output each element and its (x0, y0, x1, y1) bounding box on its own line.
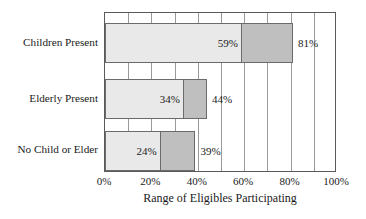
x-axis-title: Range of Eligibles Participating (104, 192, 336, 205)
x-tick-label-40: 40% (187, 176, 207, 187)
x-tick-label-100: 100% (323, 176, 349, 187)
x-tick-label-20: 20% (140, 176, 160, 187)
bar-segment-high (161, 131, 196, 171)
bar-segment-high (184, 79, 207, 119)
bar-value-label-high: 81% (293, 38, 318, 49)
category-label-elderly-present: Elderly Present (0, 92, 98, 104)
bar-row: 24%39% (105, 131, 337, 171)
bar-value-label-low: 34% (160, 94, 184, 105)
bar-row: 59%81% (105, 23, 337, 63)
plot-area: 59%81%34%44%24%39% (104, 12, 336, 172)
category-label-no-child-or-elder: No Child or Elder (0, 143, 98, 155)
bar-value-label-high: 44% (207, 94, 232, 105)
bar-row: 34%44% (105, 79, 337, 119)
bar-segment-high (242, 23, 293, 63)
bar-value-label-low: 24% (137, 146, 161, 157)
bar-value-label-low: 59% (218, 38, 242, 49)
x-tick-label-0: 0% (97, 176, 112, 187)
x-tick-label-80: 80% (280, 176, 300, 187)
category-label-children-present: Children Present (0, 36, 98, 48)
x-tick-label-60: 60% (233, 176, 253, 187)
bar-chart: Children Present Elderly Present No Chil… (0, 0, 366, 219)
bar-value-label-high: 39% (195, 146, 220, 157)
